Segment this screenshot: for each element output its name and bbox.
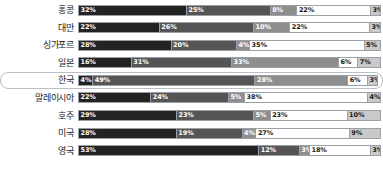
row-label-8: 영국 <box>0 146 78 156</box>
bar-segment: 24% <box>150 93 228 102</box>
bar-segment: 3% <box>369 23 380 32</box>
bar-segment: 35% <box>249 41 364 50</box>
segment-value-label: 7% <box>358 59 370 66</box>
bar-track: 29%23%5%23%10% <box>78 110 381 121</box>
bar-segment: 22% <box>296 6 370 15</box>
segment-value-label: 4% <box>79 77 91 84</box>
segment-value-label: 27% <box>256 130 273 137</box>
segment-value-label: 9% <box>350 130 362 137</box>
bar-segment: 3% <box>370 146 380 155</box>
bar-segment: 12% <box>258 146 299 155</box>
segment-value-label: 6% <box>339 59 351 66</box>
bar-segment: 49% <box>92 76 254 85</box>
segment-value-label: 4% <box>237 42 249 49</box>
bar-segment: 4% <box>242 129 256 138</box>
bar-segment: 6% <box>347 76 367 85</box>
segment-value-label: 18% <box>310 147 327 154</box>
segment-value-label: 12% <box>259 147 276 154</box>
chart-row: 대만22%26%10%22%3% <box>0 21 383 35</box>
segment-value-label: 53% <box>79 147 96 154</box>
segment-value-label: 10% <box>254 24 271 31</box>
bar-segment: 10% <box>253 23 289 32</box>
segment-value-label: 3% <box>371 7 380 14</box>
segment-value-label: 23% <box>271 112 288 119</box>
segment-value-label: 49% <box>93 77 110 84</box>
chart-row: 싱가포르28%20%4%35%5% <box>0 38 383 52</box>
bar-segment: 22% <box>79 93 150 102</box>
bar-segment: 38% <box>244 93 367 102</box>
row-label-2: 싱가포르 <box>0 40 78 50</box>
segment-value-label: 28% <box>79 42 96 49</box>
segment-value-label: 33% <box>232 59 249 66</box>
bar-segment: 28% <box>254 76 347 85</box>
segment-value-label: 25% <box>187 7 204 14</box>
segment-value-label: 24% <box>151 94 168 101</box>
bar-segment: 9% <box>349 129 380 138</box>
segment-value-label: 29% <box>79 112 96 119</box>
segment-value-label: 26% <box>160 24 177 31</box>
stacked-bar-chart: 홍콩32%25%8%22%3%대만22%26%10%22%3%싱가포르28%20… <box>0 0 383 169</box>
bar-track: 22%24%5%38%4% <box>78 92 381 103</box>
segment-value-label: 28% <box>255 77 272 84</box>
chart-row: 홍콩32%25%8%22%3% <box>0 3 383 17</box>
row-label-6: 호주 <box>0 111 78 121</box>
bar-segment: 5% <box>364 41 380 50</box>
segment-value-label: 16% <box>79 59 96 66</box>
bar-segment: 28% <box>79 129 176 138</box>
bar-segment: 32% <box>79 6 186 15</box>
segment-value-label: 5% <box>254 112 266 119</box>
segment-value-label: 22% <box>290 24 307 31</box>
segment-value-label: 32% <box>79 7 96 14</box>
bar-segment: 5% <box>228 93 244 102</box>
bar-segment: 6% <box>338 58 357 67</box>
segment-value-label: 4% <box>243 130 255 137</box>
segment-value-label: 20% <box>172 42 189 49</box>
segment-value-label: 6% <box>348 77 360 84</box>
bar-segment: 23% <box>176 111 253 120</box>
bar-track: 4%49%28%6%3% <box>78 75 378 86</box>
chart-row: 영국53%12%3%18%3% <box>0 144 383 158</box>
segment-value-label: 4% <box>368 94 380 101</box>
bar-segment: 28% <box>79 41 171 50</box>
chart-row: 호주29%23%5%23%10% <box>0 109 383 123</box>
bar-segment: 22% <box>289 23 369 32</box>
segment-value-label: 5% <box>229 94 241 101</box>
row-label-1: 대만 <box>0 23 78 33</box>
row-label-0: 홍콩 <box>0 5 78 15</box>
segment-value-label: 35% <box>250 42 267 49</box>
segment-value-label: 3% <box>368 77 377 84</box>
segment-value-label: 3% <box>370 24 380 31</box>
segment-value-label: 3% <box>371 147 380 154</box>
bar-track: 28%20%4%35%5% <box>78 40 381 51</box>
row-label-7: 미국 <box>0 128 78 138</box>
bar-track: 22%26%10%22%3% <box>78 22 381 33</box>
segment-value-label: 22% <box>297 7 314 14</box>
chart-row: 말레이시아22%24%5%38%4% <box>0 91 383 105</box>
bar-segment: 18% <box>309 146 370 155</box>
bar-segment: 10% <box>347 111 380 120</box>
chart-row: 일본16%31%33%6%7% <box>0 56 383 70</box>
segment-value-label: 31% <box>132 59 149 66</box>
segment-value-label: 19% <box>177 130 194 137</box>
bar-segment: 26% <box>159 23 253 32</box>
bar-segment: 16% <box>79 58 131 67</box>
segment-value-label: 38% <box>245 94 262 101</box>
bar-segment: 5% <box>253 111 270 120</box>
chart-row: 한국4%49%28%6%3% <box>0 72 383 89</box>
segment-value-label: 22% <box>79 94 96 101</box>
bar-track: 16%31%33%6%7% <box>78 57 381 68</box>
chart-rows-container: 홍콩32%25%8%22%3%대만22%26%10%22%3%싱가포르28%20… <box>0 3 383 161</box>
chart-row: 미국28%19%4%27%9% <box>0 126 383 140</box>
segment-value-label: 3% <box>300 147 309 154</box>
bar-segment: 23% <box>270 111 347 120</box>
bar-segment: 3% <box>370 6 380 15</box>
bar-segment: 31% <box>131 58 231 67</box>
bar-segment: 33% <box>231 58 338 67</box>
bar-segment: 3% <box>299 146 309 155</box>
bar-segment: 3% <box>367 76 377 85</box>
bar-track: 28%19%4%27%9% <box>78 128 381 139</box>
bar-segment: 27% <box>255 129 348 138</box>
row-label-5: 말레이시아 <box>0 93 78 103</box>
bar-track: 53%12%3%18%3% <box>78 145 381 156</box>
bar-segment: 4% <box>79 76 92 85</box>
